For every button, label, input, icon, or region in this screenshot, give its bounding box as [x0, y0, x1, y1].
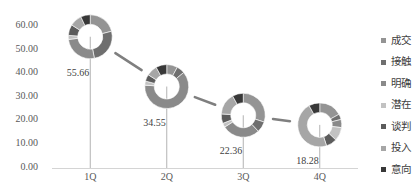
data-label-2q: 34.55 [143, 116, 166, 130]
doughnut-marker[interactable] [221, 93, 265, 137]
doughnut-segment [93, 31, 113, 58]
chart: 60.00 50.00 40.00 30.00 20.00 10.00 0.00… [0, 0, 420, 196]
legend-square-icon [381, 103, 386, 108]
legend-label: 明确 [391, 77, 411, 91]
data-label-1q: 55.66 [67, 66, 90, 80]
doughnut-marker[interactable] [145, 65, 189, 109]
legend-label: 意向 [391, 163, 411, 177]
x-category-label-4q: 4Q [305, 170, 335, 184]
legend-label: 投入 [391, 141, 411, 155]
legend-square-icon [381, 146, 386, 151]
series-line-segment [115, 53, 141, 70]
legend-item-mingque[interactable]: 明确 [380, 73, 420, 95]
legend-item-tanpan[interactable]: 谈判 [380, 116, 420, 138]
data-label-3q: 22.36 [220, 144, 243, 158]
x-category-label-1q: 1Q [75, 170, 105, 184]
legend: 成交 接触 明确 潜在 谈判 投入 意向 [380, 30, 420, 181]
y-tick-label-40: 40.00 [16, 65, 39, 79]
x-category-label-3q: 3Q [228, 170, 258, 184]
x-category-label-2q: 2Q [152, 170, 182, 184]
legend-label: 谈判 [391, 120, 411, 134]
doughnut-markers [68, 15, 342, 147]
legend-square-icon [381, 81, 386, 86]
doughnut-segment [243, 93, 265, 122]
y-tick-label-30: 30.00 [16, 89, 39, 103]
legend-item-qianzai[interactable]: 潜在 [380, 95, 420, 117]
legend-square-icon [381, 38, 386, 43]
plot-area [0, 0, 420, 196]
data-label-4q: 18.28 [296, 154, 319, 168]
series-line-segment [195, 97, 215, 105]
drop-lines [90, 37, 320, 168]
legend-square-icon [381, 60, 386, 65]
legend-item-jiechu[interactable]: 接触 [380, 52, 420, 74]
legend-item-yixiang[interactable]: 意向 [380, 159, 420, 181]
y-tick-label-50: 50.00 [16, 42, 39, 56]
legend-square-icon [381, 167, 386, 172]
y-tick-label-10: 10.00 [16, 136, 39, 150]
series-line-segment [273, 119, 290, 121]
legend-item-touru[interactable]: 投入 [380, 138, 420, 160]
y-tick-label-20: 20.00 [16, 112, 39, 126]
legend-label: 成交 [391, 34, 411, 48]
doughnut-segment [90, 15, 111, 34]
y-tick-label-0: 0.00 [21, 160, 39, 174]
legend-label: 潜在 [391, 98, 411, 112]
y-tick-label-60: 60.00 [16, 18, 39, 32]
legend-square-icon [381, 124, 386, 129]
legend-label: 接触 [391, 55, 411, 69]
legend-item-chengjiao[interactable]: 成交 [380, 30, 420, 52]
